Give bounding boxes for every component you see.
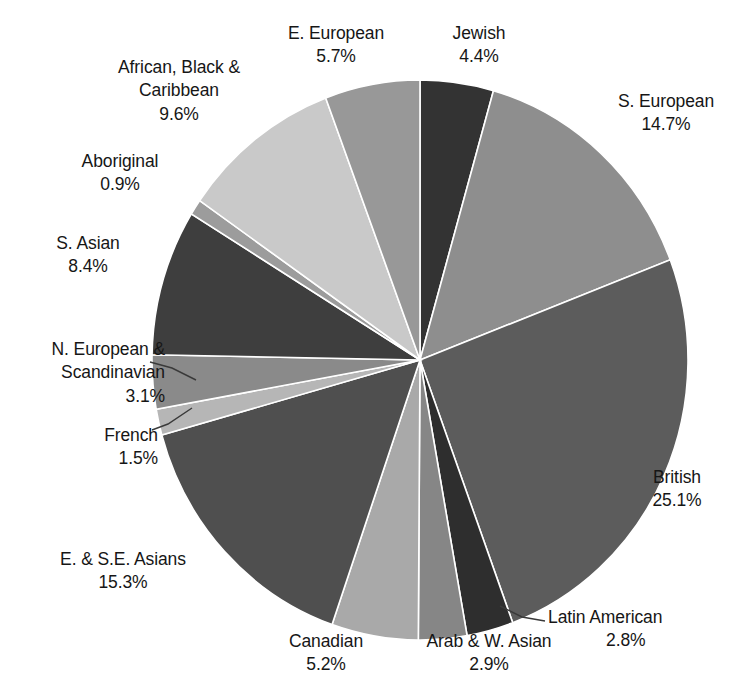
slice-label-african-line2: Caribbean [84, 79, 274, 102]
slice-label-jewish-name: Jewish [409, 22, 549, 45]
slice-label-e-se-asians: E. & S.E. Asians 15.3% [18, 548, 228, 595]
slice-label-latin-american: Latin American 2.8% [548, 606, 748, 653]
slice-label-arab-w-asian: Arab & W. Asian 2.9% [414, 630, 564, 677]
slice-label-canadian-value: 5.2% [266, 653, 386, 676]
slice-label-e-se-asians-value: 15.3% [18, 571, 228, 594]
pie-chart-figure: Jewish 4.4% S. European 14.7% British 25… [0, 0, 754, 697]
slice-label-jewish-value: 4.4% [409, 45, 549, 68]
slice-label-british: British 25.1% [612, 466, 742, 513]
slice-label-arab-w-asian-value: 2.9% [414, 653, 564, 676]
slice-label-s-asian-value: 8.4% [8, 255, 168, 278]
slice-label-aboriginal-value: 0.9% [40, 173, 200, 196]
slice-label-french-value: 1.5% [8, 447, 158, 470]
slice-label-french: French 1.5% [8, 424, 158, 471]
slice-label-african-black-caribbean: African, Black & Caribbean 9.6% [84, 56, 274, 126]
slice-label-aboriginal-name: Aboriginal [40, 150, 200, 173]
slice-label-latin-american-value: 2.8% [548, 629, 748, 652]
slice-label-n-european-scandinavian: N. European & Scandinavian 3.1% [0, 338, 165, 408]
pie-slice-group [152, 80, 688, 640]
slice-label-n-european-line1: N. European & [0, 338, 165, 361]
slice-label-n-european-value: 3.1% [0, 385, 165, 408]
slice-label-s-european-name: S. European [586, 90, 746, 113]
slice-label-african-line1: African, Black & [84, 56, 274, 79]
slice-label-e-european-value: 5.7% [256, 45, 416, 68]
slice-label-french-name: French [8, 424, 158, 447]
slice-label-s-asian: S. Asian 8.4% [8, 232, 168, 279]
slice-label-jewish: Jewish 4.4% [409, 22, 549, 69]
slice-label-british-name: British [612, 466, 742, 489]
slice-label-canadian: Canadian 5.2% [266, 630, 386, 677]
slice-label-latin-american-name: Latin American [548, 606, 662, 629]
slice-label-e-european: E. European 5.7% [256, 22, 416, 69]
slice-label-arab-w-asian-name: Arab & W. Asian [414, 630, 564, 653]
slice-label-african-value: 9.6% [84, 103, 274, 126]
slice-label-n-european-line2: Scandinavian [0, 361, 165, 384]
slice-label-e-se-asians-name: E. & S.E. Asians [18, 548, 228, 571]
slice-label-canadian-name: Canadian [266, 630, 386, 653]
slice-label-e-european-name: E. European [256, 22, 416, 45]
slice-label-s-european-value: 14.7% [586, 113, 746, 136]
slice-label-s-european: S. European 14.7% [586, 90, 746, 137]
slice-label-british-value: 25.1% [612, 489, 742, 512]
slice-label-s-asian-name: S. Asian [8, 232, 168, 255]
slice-label-aboriginal: Aboriginal 0.9% [40, 150, 200, 197]
